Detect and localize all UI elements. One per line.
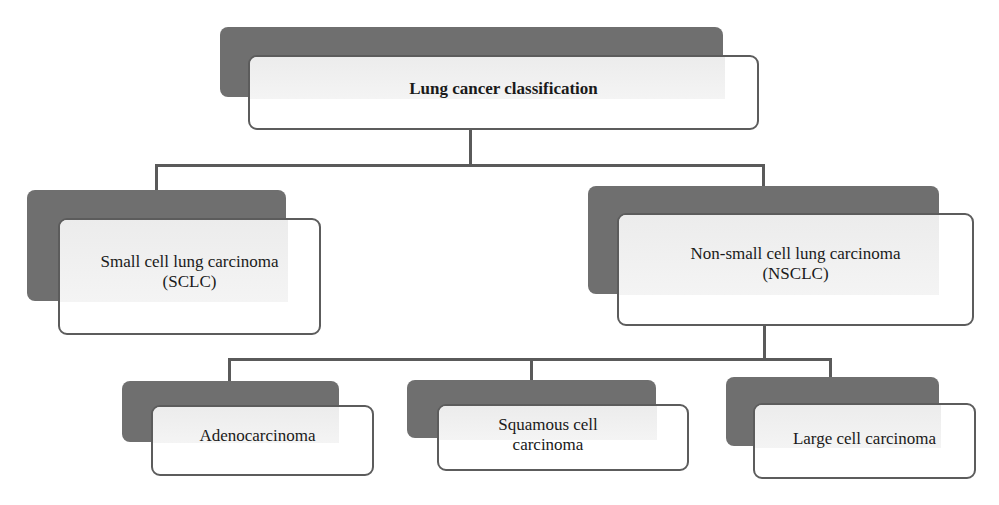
large-node: Large cell carcinoma [753,403,976,479]
squamous-node-label: Squamous cell carcinoma [498,415,598,453]
connector-to-adeno [228,358,231,382]
nsclc-node: Non-small cell lung carcinoma (NSCLC) [617,213,974,326]
nsclc-node-line2: (NSCLC) [690,264,900,283]
diagram-canvas: Lung cancer classification Small cell lu… [0,0,999,505]
squamous-node-line1: Squamous cell [498,415,598,434]
sclc-node: Small cell lung carcinoma (SCLC) [58,218,321,335]
squamous-node-line2: carcinoma [498,435,598,454]
sclc-node-label: Small cell lung carcinoma (SCLC) [101,252,279,290]
connector-nsclc-down [763,324,766,360]
squamous-node: Squamous cell carcinoma [437,404,689,471]
connector-level1-bus [155,164,764,167]
large-node-label: Large cell carcinoma [793,429,936,448]
root-node: Lung cancer classification [248,55,759,130]
root-node-label: Lung cancer classification [409,79,598,98]
connector-to-nsclc [762,164,765,187]
nsclc-node-label: Non-small cell lung carcinoma (NSCLC) [690,244,900,282]
connector-root-down [469,128,472,166]
connector-to-large [829,358,832,378]
adeno-node: Adenocarcinoma [151,405,374,476]
connector-to-sclc [155,164,158,191]
sclc-node-line2: (SCLC) [101,272,279,291]
sclc-node-line1: Small cell lung carcinoma [101,252,279,271]
adeno-node-label: Adenocarcinoma [199,426,315,445]
nsclc-node-line1: Non-small cell lung carcinoma [690,244,900,263]
connector-to-squamous [530,358,533,381]
